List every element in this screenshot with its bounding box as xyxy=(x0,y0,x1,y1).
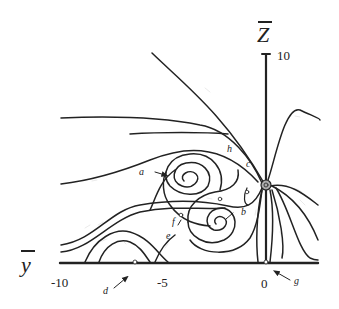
z-tick-10: 10 xyxy=(277,48,290,64)
label-a: a xyxy=(139,166,144,177)
y-tick-minus10: -10 xyxy=(51,275,68,291)
label-g: g xyxy=(294,275,299,286)
streamline-diagram xyxy=(0,0,339,309)
point-e xyxy=(179,213,183,217)
y-axis-label: y xyxy=(21,252,31,278)
y-tick-0: 0 xyxy=(261,276,268,292)
focus-node xyxy=(261,180,271,190)
y-axis-overbar xyxy=(21,250,35,252)
y-tick-minus5: -5 xyxy=(157,275,168,291)
label-h: h xyxy=(227,143,232,154)
point-f xyxy=(218,197,222,201)
label-b: b xyxy=(241,206,246,217)
point-d xyxy=(133,260,137,264)
z-axis-overbar xyxy=(258,21,272,23)
point-g xyxy=(264,260,268,264)
z-axis-label: Z xyxy=(257,22,269,48)
label-c: c xyxy=(246,158,250,169)
label-d: d xyxy=(103,285,108,296)
label-e: e xyxy=(166,230,170,241)
label-f: f xyxy=(172,216,175,227)
point-h xyxy=(245,190,249,194)
